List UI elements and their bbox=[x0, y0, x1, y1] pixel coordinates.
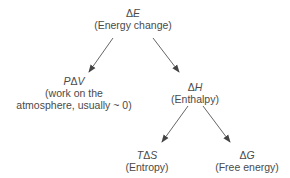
enthalpy-symbol: ΔH bbox=[171, 81, 219, 93]
pv-work-label-line1: (work on the bbox=[16, 87, 131, 99]
arrow-enthalpy-to-free-energy bbox=[203, 106, 230, 142]
free-energy-symbol: ΔG bbox=[215, 149, 279, 161]
arrow-energy-to-pv bbox=[89, 38, 113, 72]
node-entropy: TΔS (Entropy) bbox=[125, 149, 168, 173]
node-free-energy: ΔG (Free energy) bbox=[215, 149, 279, 173]
entropy-label: (Entropy) bbox=[125, 161, 168, 173]
energy-change-label: (Energy change) bbox=[94, 19, 172, 31]
pv-work-label-line2: atmosphere, usually ~ 0) bbox=[16, 99, 131, 111]
free-energy-label: (Free energy) bbox=[215, 161, 279, 173]
arrow-energy-to-enthalpy bbox=[153, 38, 179, 72]
node-energy-change: ΔE (Energy change) bbox=[94, 7, 172, 31]
pv-work-symbol: PΔV bbox=[16, 75, 131, 87]
entropy-symbol: TΔS bbox=[125, 149, 168, 161]
node-pv-work: PΔV (work on the atmosphere, usually ~ 0… bbox=[16, 75, 131, 111]
enthalpy-label: (Enthalpy) bbox=[171, 93, 219, 105]
arrow-enthalpy-to-entropy bbox=[162, 106, 188, 142]
energy-change-symbol: ΔE bbox=[94, 7, 172, 19]
node-enthalpy: ΔH (Enthalpy) bbox=[171, 81, 219, 105]
